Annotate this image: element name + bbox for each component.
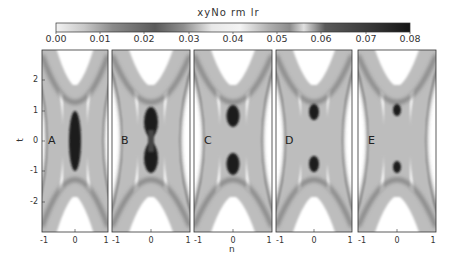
x-tick: 1: [347, 236, 352, 245]
x-tick: -1: [276, 236, 284, 245]
y-tick: -1: [24, 166, 38, 175]
y-tick: 2: [24, 75, 38, 84]
panel-c: [186, 40, 280, 242]
x-tick: 1: [266, 236, 271, 245]
x-tick: 1: [185, 236, 190, 245]
panel-d: [268, 40, 360, 242]
x-tick: -1: [40, 236, 48, 245]
colorbar-tick: 0.01: [89, 33, 110, 44]
y-axis-label: t: [15, 138, 25, 142]
colorbar-tick: 0.03: [178, 33, 199, 44]
panel-b: [104, 40, 198, 242]
colorbar-tick: 0.04: [222, 33, 243, 44]
colorbar: [56, 23, 410, 32]
panel-e: [350, 40, 444, 242]
x-tick: 0: [72, 236, 77, 245]
panel-label-c: C: [204, 134, 212, 147]
panel-label-e: E: [368, 134, 375, 147]
x-tick: 0: [148, 236, 153, 245]
colorbar-tick: 0.06: [310, 33, 331, 44]
x-tick: 0: [394, 236, 399, 245]
colorbar-tick: 0.05: [266, 33, 287, 44]
y-tick: -2: [24, 197, 38, 206]
y-tick: 0: [24, 136, 38, 145]
panel-label-d: D: [285, 134, 293, 147]
y-tick: 1: [24, 106, 38, 115]
x-tick: -1: [112, 236, 120, 245]
colorbar-tick: 0.00: [45, 33, 66, 44]
x-tick: -1: [358, 236, 366, 245]
colorbar-tick: 0.02: [133, 33, 154, 44]
panel-label-a: A: [48, 134, 56, 147]
colorbar-tick: 0.08: [399, 33, 420, 44]
x-tick: 1: [103, 236, 108, 245]
x-axis-label: n: [229, 244, 235, 254]
x-tick: 0: [311, 236, 316, 245]
x-tick: 1: [430, 236, 435, 245]
panel-label-b: B: [121, 134, 129, 147]
x-tick: -1: [194, 236, 202, 245]
colorbar-tick: 0.07: [355, 33, 376, 44]
